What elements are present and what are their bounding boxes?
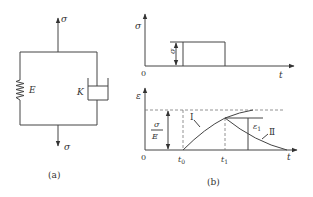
bottom-stress-label: σ <box>64 142 71 152</box>
spring-label: E <box>28 85 36 95</box>
caption-a: (a) <box>48 170 60 180</box>
top-stress-label: σ <box>61 14 68 24</box>
curve2-leader <box>262 134 268 139</box>
amplitude-label: σ <box>168 48 177 54</box>
curve1-label: Ⅰ <box>190 112 194 122</box>
stress-time-graph: σ 0 t σ <box>135 14 294 80</box>
figure-a-kelvin-model: σ E K σ (a) <box>16 14 108 180</box>
ratio-denominator: E <box>151 132 158 141</box>
caption-b: (b) <box>207 177 220 187</box>
stress-y-label: σ <box>135 21 142 31</box>
stress-x-label: t <box>279 70 283 80</box>
stress-origin-label: 0 <box>141 69 146 78</box>
ratio-numerator: σ <box>154 120 160 129</box>
curve2-label: Ⅱ <box>269 127 275 137</box>
spring-icon <box>16 80 24 100</box>
eps1-label: ε1 <box>253 122 261 132</box>
strain-x-label: t <box>287 152 291 162</box>
dashpot-label: K <box>76 87 85 97</box>
strain-origin-label: 0 <box>141 153 146 162</box>
strain-y-label: ε <box>136 91 141 101</box>
dashpot-icon <box>88 78 108 100</box>
strain-time-graph: ε 0 σ E Ⅰ Ⅱ ε1 t0 t1 t <box>136 88 297 165</box>
stress-pulse <box>183 42 225 66</box>
t1-label: t1 <box>221 155 228 165</box>
kelvin-model-diagram: σ E K σ (a) σ 0 t σ ε <box>0 0 313 197</box>
top-frame <box>20 52 97 86</box>
t0-label: t0 <box>178 155 185 165</box>
bottom-frame <box>20 100 97 125</box>
curve1-leader <box>194 120 200 127</box>
